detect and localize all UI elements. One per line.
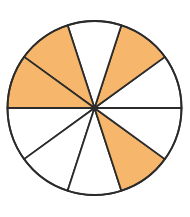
fraction-circle [0, 0, 190, 217]
fraction-diagram: 4/10 [0, 0, 190, 217]
center-point [93, 106, 97, 110]
